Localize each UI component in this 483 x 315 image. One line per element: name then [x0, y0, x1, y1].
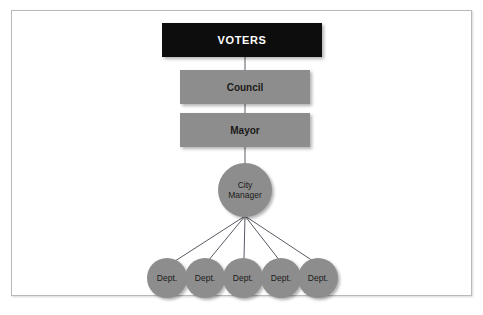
node-mayor-label: Mayor — [230, 125, 259, 136]
node-council-label: Council — [227, 82, 264, 93]
node-department-4-label: Dept. — [271, 273, 291, 283]
node-department-4[interactable]: Dept. — [261, 258, 301, 298]
node-department-2[interactable]: Dept. — [185, 258, 225, 298]
node-mayor[interactable]: Mayor — [180, 113, 310, 147]
node-city-manager[interactable]: City Manager — [218, 163, 272, 217]
node-city-manager-label: City Manager — [228, 180, 262, 200]
diagram-canvas: VOTERS Council Mayor City Manager Dept. … — [0, 0, 483, 315]
node-department-1-label: Dept. — [157, 273, 177, 283]
node-department-5[interactable]: Dept. — [298, 258, 338, 298]
node-department-5-label: Dept. — [308, 273, 328, 283]
node-voters[interactable]: VOTERS — [162, 23, 322, 57]
node-department-1[interactable]: Dept. — [147, 258, 187, 298]
node-voters-label: VOTERS — [218, 34, 267, 46]
node-department-3[interactable]: Dept. — [223, 258, 263, 298]
node-department-3-label: Dept. — [233, 273, 253, 283]
node-council[interactable]: Council — [180, 70, 310, 104]
node-department-2-label: Dept. — [195, 273, 215, 283]
